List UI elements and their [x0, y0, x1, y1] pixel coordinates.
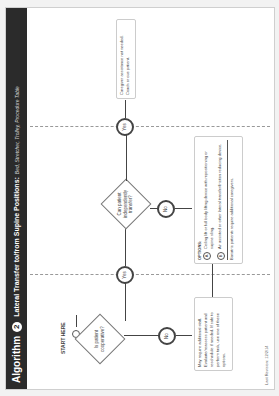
start-label: START HERE — [60, 322, 66, 354]
arrow-connector — [125, 283, 126, 321]
algorithm-label: Algorithm — [11, 336, 22, 383]
yes-circle-1: Yes — [116, 266, 134, 284]
option-a: A Ceiling lift or full body lifting devi… — [203, 140, 215, 260]
arrow-connector — [125, 100, 126, 118]
dashed-divider-2 — [30, 126, 270, 127]
last-revision: Last Revision: 12/2/14 — [264, 345, 269, 385]
page-title: Lateral Transfer to/from Supine Position… — [13, 177, 20, 317]
arrow-connector — [176, 335, 192, 336]
header-band: Algorithm 2 Lateral Transfer to/from Sup… — [6, 8, 27, 389]
arrow-connector — [125, 226, 126, 266]
no-circle-1: No — [158, 327, 176, 345]
decision-cooperative-text: Is patient cooperative? — [94, 319, 105, 359]
arrow-connector — [175, 208, 192, 209]
box-not-cooperative: May require additional staff. Evaluate/r… — [194, 297, 233, 371]
algorithm-page: Algorithm 2 Lateral Transfer to/from Sup… — [5, 7, 275, 390]
decision-independent-text: Can patient independently transfer? — [117, 184, 134, 224]
option-letter-a: A — [203, 252, 211, 260]
option-b: B Air assisted or other lateral transfer… — [217, 140, 225, 260]
arrow-connector — [126, 135, 127, 181]
option-b-text: Air assisted or other lateral transfer/f… — [217, 144, 223, 249]
dashed-divider-1 — [30, 274, 270, 275]
arrow-connector — [124, 335, 159, 336]
page-subtitle: Bed, Stretcher, Trolley, Procedure Table — [14, 86, 20, 174]
option-letter-b: B — [217, 252, 225, 260]
option-a-text: Ceiling lift or full body lifting device… — [203, 140, 215, 249]
no-circle-2: No — [157, 200, 175, 218]
yes-circle-2: Yes — [116, 118, 134, 136]
arrow-connector — [212, 264, 213, 297]
box-independent: Caregiver assistance not needed. Coach o… — [116, 19, 136, 99]
options-box: OPTIONS: A Ceiling lift or full body lif… — [194, 136, 243, 264]
algorithm-number-badge: 2 — [12, 322, 22, 332]
arrow-connector — [76, 315, 77, 327]
options-note: Bariatric patients require additional ca… — [227, 140, 235, 260]
